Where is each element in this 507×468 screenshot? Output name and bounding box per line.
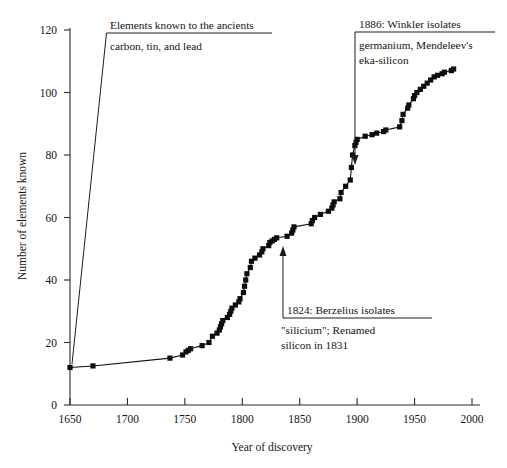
annotation-winkler: 1886: Winkler isolates germanium, Mendel… [352,18,496,165]
data-point-marker [241,290,246,295]
data-point-marker [400,112,405,117]
annotation-winkler-line-1: germanium, Mendeleev's [359,39,473,51]
data-point-marker [435,73,440,78]
series-markers [67,66,456,370]
annotation-ancients-leader [72,33,272,364]
x-tick-label-1950: 1950 [403,413,426,425]
data-point-marker [318,212,323,217]
elements-discovery-line-chart: 020406080100120 165017001750180018501900… [0,0,507,468]
y-axis-ticks: 020406080100120 [40,24,70,411]
y-tick-label-100: 100 [40,87,58,99]
data-point-marker [199,343,204,348]
data-point-marker [312,215,317,220]
y-tick-label-40: 40 [46,274,58,286]
data-point-marker [220,318,225,323]
data-point-marker [338,190,343,195]
data-point-marker [291,224,296,229]
data-point-marker [248,265,253,270]
annotation-berzelius: 1824: Berzelius isolates "silicium"; Ren… [280,246,433,351]
annotation-berzelius-line-2: silicon in 1831 [281,339,348,351]
x-tick-label-1800: 1800 [231,413,254,425]
x-tick-label-1850: 1850 [288,413,311,425]
data-point-marker [237,296,242,301]
x-tick-label-1750: 1750 [173,413,196,425]
data-point-marker [188,346,193,351]
data-point-marker [67,365,72,370]
data-point-marker [363,134,368,139]
annotation-winkler-heading: 1886: Winkler isolates [359,18,461,30]
annotation-berzelius-line-1: "silicium"; Renamed [281,324,376,336]
x-axis-ticks: 16501700175018001850190019502000 [59,398,484,425]
y-axis-title: Number of elements known [16,152,28,280]
data-point-marker [90,363,95,368]
data-point-marker [167,356,172,361]
y-tick-label-80: 80 [46,149,58,161]
annotation-winkler-line-2: eka-silicon [359,54,409,66]
series-line-cumulative-elements [70,69,454,367]
data-point-marker [399,118,404,123]
data-point-marker [243,277,248,282]
series-group [67,66,456,370]
data-point-marker [210,334,215,339]
data-point-marker [349,165,354,170]
data-point-marker [332,199,337,204]
y-tick-label-0: 0 [51,399,57,411]
y-tick-label-20: 20 [46,337,58,349]
data-point-marker [337,196,342,201]
data-point-marker [406,102,411,107]
annotation-berzelius-heading: 1824: Berzelius isolates [287,304,395,316]
x-tick-label-2000: 2000 [461,413,484,425]
data-point-marker [274,235,279,240]
x-tick-label-1900: 1900 [346,413,369,425]
data-point-marker [206,340,211,345]
data-point-marker [369,132,374,137]
x-tick-label-1650: 1650 [59,413,82,425]
data-point-marker [397,124,402,129]
annotation-ancients: Elements known to the ancients carbon, t… [72,19,272,364]
chart-container: 020406080100120 165017001750180018501900… [0,0,507,468]
data-point-marker [244,271,249,276]
data-point-marker [242,284,247,289]
annotation-berzelius-arrowhead [280,246,287,256]
data-point-marker [442,70,447,75]
annotation-ancients-line-1: carbon, tin, and lead [110,40,202,52]
data-point-marker [343,184,348,189]
data-point-marker [374,131,379,136]
data-point-marker [451,66,456,71]
data-point-marker [348,177,353,182]
x-axis-title: Year of discovery [231,441,312,454]
y-tick-label-120: 120 [40,24,58,36]
y-tick-label-60: 60 [46,212,58,224]
data-point-marker [284,234,289,239]
axes-group [70,28,480,405]
annotation-ancients-heading: Elements known to the ancients [110,19,254,31]
data-point-marker [260,246,265,251]
x-tick-label-1700: 1700 [116,413,139,425]
data-point-marker [252,256,257,261]
data-point-marker [383,127,388,132]
